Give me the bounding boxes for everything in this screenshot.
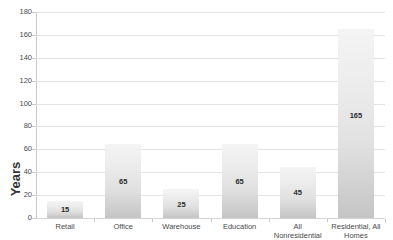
y-axis-tick-label: 120 — [6, 77, 32, 85]
y-axis-tick-label: 80 — [6, 122, 32, 130]
y-axis-tick-label: 60 — [6, 145, 32, 153]
bar-value-label: 45 — [294, 188, 302, 197]
x-axis-tick-mark — [94, 219, 95, 222]
x-axis-tick-mark — [327, 219, 328, 222]
x-axis-tick-label: Retail — [36, 222, 94, 231]
x-axis-tick-label: Office — [94, 222, 152, 231]
bar-slot: 65 — [94, 12, 152, 218]
bar-value-label: 165 — [350, 111, 363, 120]
x-axis-tick-mark — [211, 219, 212, 222]
bar-slot: 65 — [211, 12, 269, 218]
x-axis-tick-mark — [385, 219, 386, 222]
bar-slot: 25 — [152, 12, 210, 218]
y-axis-tick-label: 180 — [6, 8, 32, 16]
bar-value-label: 25 — [177, 200, 185, 209]
x-axis-tick-label: All Nonresidential — [269, 222, 327, 240]
bar-chart: Years 180160140120100806040200 156525654… — [0, 0, 393, 240]
bar[interactable] — [338, 29, 374, 218]
x-axis-tick-mark — [152, 219, 153, 222]
y-axis-tick-label: 20 — [6, 191, 32, 199]
y-axis-tick-label: 0 — [6, 214, 32, 222]
y-axis-tick-labels: 180160140120100806040200 — [0, 12, 32, 218]
bar-value-label: 15 — [61, 205, 69, 214]
x-axis-tick-label: Education — [211, 222, 269, 231]
x-axis-tick-labels: RetailOfficeWarehouseEducationAll Nonres… — [36, 222, 385, 240]
y-axis-tick-label: 160 — [6, 31, 32, 39]
bar-value-label: 65 — [235, 177, 243, 186]
bar-slot: 165 — [327, 12, 385, 218]
y-axis-tick-label: 100 — [6, 100, 32, 108]
y-axis-tick-label: 140 — [6, 54, 32, 62]
x-axis-tick-label: Residential, All Homes — [327, 222, 385, 240]
bars-layer: 1565256545165 — [36, 12, 385, 218]
bar-value-label: 65 — [119, 177, 127, 186]
x-axis-tick-mark — [269, 219, 270, 222]
y-axis-tick-label: 40 — [6, 168, 32, 176]
bar-slot: 45 — [269, 12, 327, 218]
x-axis-tick-label: Warehouse — [152, 222, 210, 231]
bar-slot: 15 — [36, 12, 94, 218]
